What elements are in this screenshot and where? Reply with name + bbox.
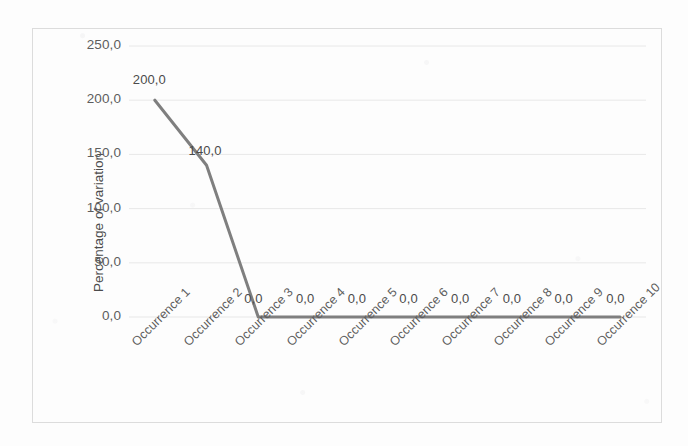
- data-point-label: 0,0: [606, 291, 624, 306]
- data-point-label: 140,0: [189, 143, 222, 158]
- data-point-label: 0,0: [399, 291, 417, 306]
- plot-area: [33, 29, 663, 424]
- data-point-label: 0,0: [296, 291, 314, 306]
- data-point-label: 0,0: [503, 291, 521, 306]
- gridlines: [129, 46, 646, 317]
- data-point-label: 0,0: [451, 291, 469, 306]
- chart-frame: Percentage of variation 250,0200,0150,01…: [32, 28, 662, 423]
- data-point-label: 0,0: [348, 291, 366, 306]
- data-point-label: 200,0: [133, 72, 166, 87]
- data-point-label: 0,0: [554, 291, 572, 306]
- data-point-label: 0,0: [244, 291, 262, 306]
